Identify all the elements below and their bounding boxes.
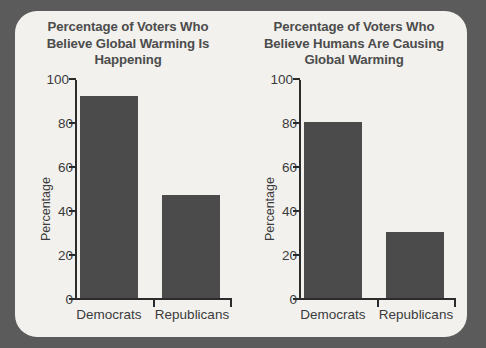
- chart-panel-left: Percentage of Voters Who Believe Global …: [15, 11, 241, 337]
- y-tick-left-0: [69, 298, 76, 300]
- x-tick-left-end: [230, 300, 232, 307]
- y-tick-right-20: [293, 254, 300, 256]
- bar-republicans-right: [386, 232, 444, 298]
- x-tick-right-end: [454, 300, 456, 307]
- y-tick-label-right-100: 100: [263, 72, 293, 87]
- y-tick-right-0: [293, 298, 300, 300]
- y-tick-right-100: [293, 78, 300, 80]
- x-tick-label-left-republicans: Republicans: [153, 307, 231, 322]
- bar-democrats-left: [80, 96, 138, 298]
- x-tick-right-mid: [377, 300, 379, 307]
- y-tick-left-80: [69, 122, 76, 124]
- plot-area-left: Percentage 0 20 40 60 80 100: [15, 11, 241, 337]
- x-tick-label-right-democrats: Democrats: [297, 307, 369, 322]
- x-tick-label-left-democrats: Democrats: [73, 307, 145, 322]
- chart-panel-right: Percentage of Voters Who Believe Humans …: [241, 11, 467, 337]
- y-tick-left-100: [69, 78, 76, 80]
- x-tick-label-right-republicans: Republicans: [377, 307, 455, 322]
- plot-area-right: Percentage 0 20 40 60 80 100 D: [241, 11, 467, 337]
- y-axis-spine-left: [75, 80, 77, 300]
- x-tick-left-mid: [153, 300, 155, 307]
- y-tick-right-40: [293, 210, 300, 212]
- bar-democrats-right: [304, 122, 362, 298]
- y-tick-left-60: [69, 166, 76, 168]
- y-tick-left-20: [69, 254, 76, 256]
- y-tick-right-60: [293, 166, 300, 168]
- y-axis-spine-right: [299, 80, 301, 300]
- bar-republicans-left: [162, 195, 220, 298]
- figure-card: Percentage of Voters Who Believe Global …: [15, 11, 467, 337]
- y-tick-right-80: [293, 122, 300, 124]
- y-tick-left-40: [69, 210, 76, 212]
- charts-row: Percentage of Voters Who Believe Global …: [15, 11, 467, 337]
- y-tick-label-left-100: 100: [39, 72, 69, 87]
